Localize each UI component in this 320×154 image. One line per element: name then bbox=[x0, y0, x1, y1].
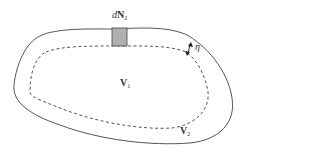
label-V2: V2 bbox=[180, 126, 190, 137]
eta-arrowhead-bottom-icon bbox=[185, 51, 190, 56]
label-dN2-sub: 2 bbox=[124, 15, 127, 21]
label-V1-sub: 1 bbox=[127, 83, 130, 89]
label-V2-sub: 2 bbox=[187, 131, 190, 137]
eta-arrowhead-top-icon bbox=[188, 42, 193, 47]
label-dN2: dN2 bbox=[112, 10, 127, 21]
volume-element-dN2 bbox=[112, 28, 127, 46]
label-V1: V1 bbox=[120, 78, 130, 89]
label-eta: η bbox=[195, 42, 200, 52]
